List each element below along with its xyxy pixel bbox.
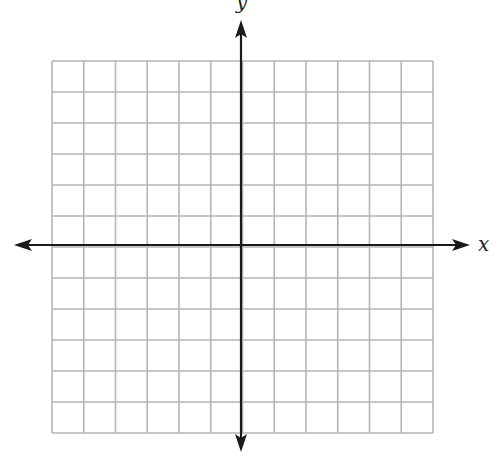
grid — [52, 61, 433, 433]
y-axis-label: y — [235, 0, 248, 14]
coordinate-plane: x y — [0, 0, 489, 459]
x-axis-label: x — [478, 232, 489, 256]
